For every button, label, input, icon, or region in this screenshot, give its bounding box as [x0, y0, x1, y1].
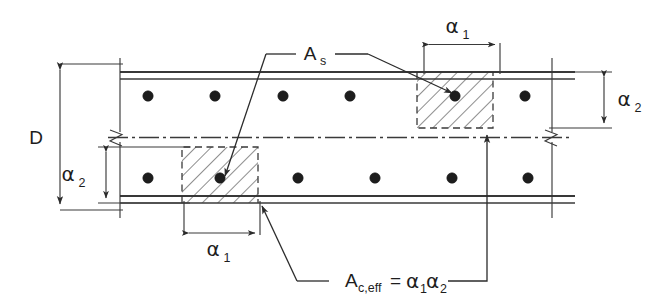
rebar-dot-in-hatch	[215, 173, 225, 183]
dimension-alpha2-bottom: α 2	[61, 147, 190, 203]
dimension-label-alpha2-top-glyph: α	[617, 87, 630, 111]
Aceff-leader-to-bottom-region	[262, 206, 297, 281]
rebar-dot	[143, 91, 153, 101]
rebar-dot	[523, 173, 533, 183]
rebar-dot	[278, 91, 288, 101]
dimension-label-alpha1-top-glyph: α	[445, 14, 458, 38]
rebar-dot	[345, 91, 355, 101]
rebar-dot	[447, 173, 457, 183]
dimension-label-alpha2-bottom-sub: 2	[79, 176, 86, 190]
rebar-dot	[370, 173, 380, 183]
dimension-alpha2-top: α 2	[549, 72, 642, 128]
rebar-dot	[210, 91, 220, 101]
dimension-label-alpha1-bottom-sub: 1	[224, 251, 231, 265]
callout-label-As-main: A	[304, 43, 317, 64]
rebar-dot	[293, 173, 303, 183]
Aceff-leader-to-top-region	[448, 135, 487, 281]
cross-section-diagram: D α 2 α 2 α 1	[0, 0, 660, 305]
dimension-alpha1-top: α 1	[424, 14, 500, 74]
callout-label-Aceff-main: A	[345, 270, 358, 291]
dimension-label-D: D	[29, 127, 43, 148]
callout-label-Aceff-alpha1-glyph: α	[406, 269, 419, 293]
callout-label-Aceff-alpha2-sub: 2	[440, 282, 447, 296]
rebar-dot	[143, 173, 153, 183]
dimension-label-alpha1-top-sub: 1	[463, 28, 470, 42]
dimension-label-alpha2-top-sub: 2	[635, 101, 642, 115]
callout-label-Aceff-equals: =	[390, 270, 401, 291]
callout-effective-area: A c,eff = α 1 α 2	[262, 135, 487, 296]
callout-label-Aceff-alpha2-glyph: α	[426, 269, 439, 293]
dimension-alpha1-bottom: α 1	[184, 201, 260, 265]
callout-label-Aceff-sub: c,eff	[358, 281, 382, 295]
callout-label-As-sub: s	[320, 54, 326, 68]
figure-root: D α 2 α 2 α 1	[0, 0, 660, 305]
dimension-label-alpha2-bottom-glyph: α	[61, 162, 74, 186]
rebar-dot	[520, 91, 530, 101]
dimension-label-alpha1-bottom-glyph: α	[206, 237, 219, 261]
